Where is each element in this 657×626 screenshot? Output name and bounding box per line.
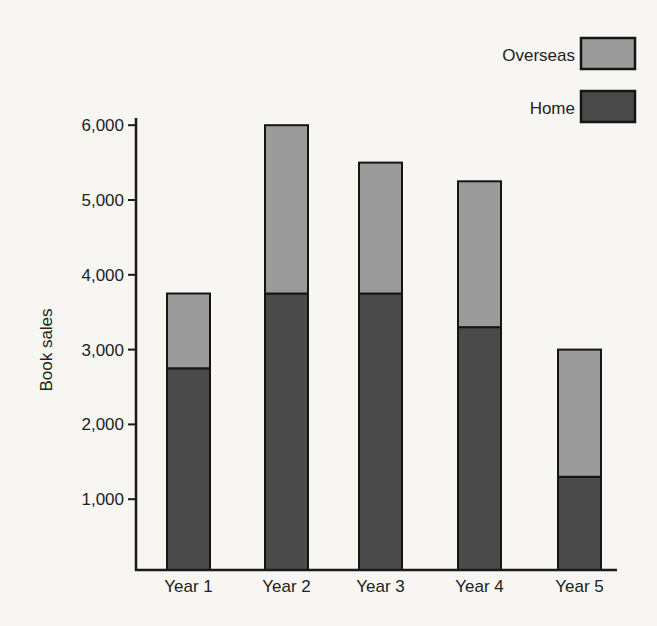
bar-segment-home — [359, 294, 402, 571]
bar-segment-home — [167, 368, 210, 570]
bar-segment-home — [558, 477, 601, 570]
legend-swatch-overseas — [581, 38, 635, 69]
bar-year-2 — [265, 125, 308, 570]
x-tick-label: Year 4 — [455, 577, 504, 596]
legend-label-home: Home — [530, 99, 575, 118]
y-axis: 1,0002,0003,0004,0005,0006,000 — [81, 116, 136, 571]
stacked-bar-chart: 1,0002,0003,0004,0005,0006,000 Year 1Yea… — [0, 0, 657, 626]
bar-segment-home — [458, 327, 501, 570]
y-tick-label: 5,000 — [81, 191, 124, 210]
legend: OverseasHome — [502, 38, 635, 122]
bars — [167, 125, 601, 570]
legend-label-overseas: Overseas — [502, 46, 575, 65]
legend-swatch-home — [581, 91, 635, 122]
x-tick-label: Year 3 — [356, 577, 405, 596]
x-tick-label: Year 2 — [262, 577, 311, 596]
bar-year-4 — [458, 181, 501, 570]
bar-year-3 — [359, 163, 402, 570]
bar-segment-home — [265, 294, 308, 571]
y-tick-label: 3,000 — [81, 341, 124, 360]
bar-segment-overseas — [558, 350, 601, 477]
y-tick-label: 1,000 — [81, 490, 124, 509]
y-tick-label: 2,000 — [81, 415, 124, 434]
y-tick-label: 4,000 — [81, 266, 124, 285]
bar-segment-overseas — [167, 294, 210, 369]
y-axis-label: Book sales — [37, 308, 56, 391]
x-axis: Year 1Year 2Year 3Year 4Year 5 — [135, 570, 617, 596]
x-tick-label: Year 1 — [164, 577, 213, 596]
y-tick-label: 6,000 — [81, 116, 124, 135]
bar-segment-overseas — [265, 125, 308, 293]
x-tick-label: Year 5 — [555, 577, 604, 596]
bar-segment-overseas — [458, 181, 501, 327]
bar-year-1 — [167, 294, 210, 571]
bar-segment-overseas — [359, 163, 402, 294]
bar-year-5 — [558, 350, 601, 570]
